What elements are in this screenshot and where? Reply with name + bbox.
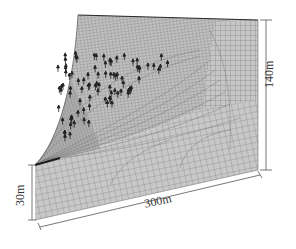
- mesh-diagram: [0, 0, 296, 249]
- pile-marker-arrow-icon: [64, 53, 67, 56]
- dimension-label-140m: 140m: [262, 61, 277, 88]
- pile-marker-arrow-icon: [57, 65, 60, 68]
- pile-marker-arrow-icon: [57, 105, 60, 108]
- pile-marker-arrow-icon: [65, 64, 68, 67]
- dimension-label-30m: 30m: [13, 185, 28, 206]
- dimension-140m: [260, 20, 272, 170]
- pile-marker-arrow-icon: [64, 57, 67, 60]
- dimension-30m: [28, 165, 36, 220]
